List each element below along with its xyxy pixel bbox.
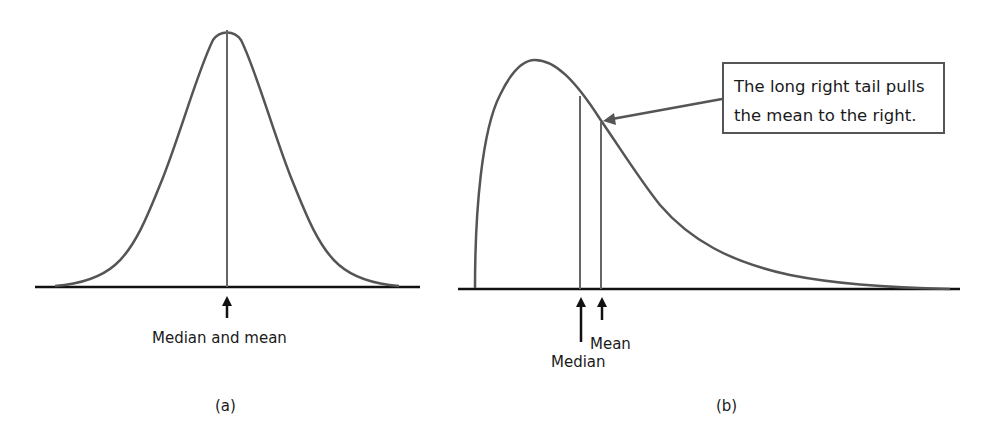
panel-a-caption: (a) [215,399,236,414]
callout-pointer-arrow-icon [603,99,722,125]
callout-box: The long right tail pulls the mean to th… [722,62,945,134]
mean-label: Mean [590,337,631,352]
median-label: Median [551,355,606,370]
mean-arrow-up-icon [597,297,607,320]
arrow-up-icon [222,296,232,318]
panel-a-graph [35,30,420,318]
median-arrow-up-icon [576,297,586,342]
callout-line-2: the mean to the right. [734,101,935,130]
median-and-mean-label: Median and mean [152,331,287,346]
callout-line-1: The long right tail pulls [734,72,935,101]
panel-b-caption: (b) [716,399,737,414]
